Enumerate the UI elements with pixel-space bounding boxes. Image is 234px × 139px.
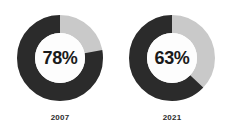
donut-center-2021: 63% bbox=[147, 33, 197, 83]
donut-ring-2021: 63% bbox=[129, 15, 215, 101]
donut-ring-2007: 78% bbox=[17, 15, 103, 101]
donut-chart-panel: 78% 2007 63% 2021 bbox=[0, 0, 234, 139]
donut-value-2021: 63% bbox=[154, 49, 189, 67]
donut-chart-2007: 78% 2007 bbox=[4, 0, 116, 139]
donut-value-2007: 78% bbox=[42, 49, 77, 67]
donut-label-2007: 2007 bbox=[51, 113, 70, 122]
donut-label-2021: 2021 bbox=[163, 113, 182, 122]
donut-center-2007: 78% bbox=[35, 33, 85, 83]
donut-chart-2021: 63% 2021 bbox=[116, 0, 228, 139]
